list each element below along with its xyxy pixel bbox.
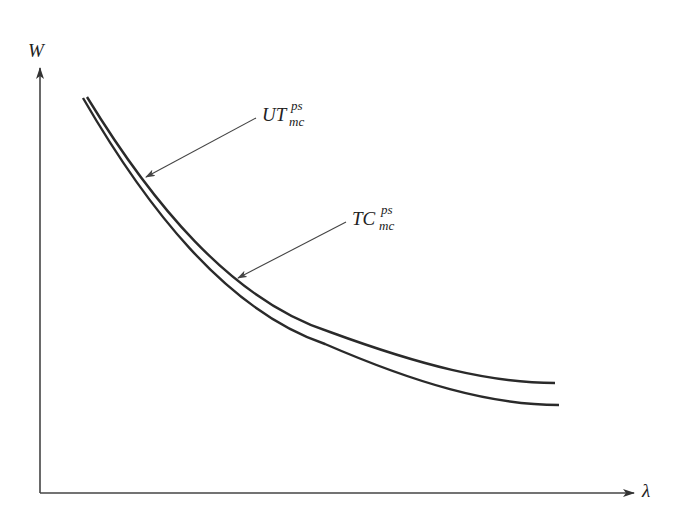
ut-curve — [87, 97, 555, 383]
tc-curve — [83, 98, 559, 405]
tc-label-main: TC — [352, 208, 375, 230]
y-axis-label: W — [28, 40, 44, 62]
ut-label-sub: mc — [289, 114, 304, 130]
tc-leader-arrow — [238, 222, 346, 278]
ut-label: UT ps mc — [262, 104, 332, 134]
ut-label-sup: ps — [291, 98, 303, 114]
x-axis-label: λ — [642, 480, 650, 502]
tc-label-sup: ps — [381, 202, 393, 218]
tc-label-sub: mc — [379, 218, 394, 234]
tc-label: TC ps mc — [352, 208, 422, 238]
ut-leader-arrow — [146, 118, 256, 177]
ut-label-main: UT — [262, 104, 286, 126]
chart-canvas — [0, 0, 685, 521]
